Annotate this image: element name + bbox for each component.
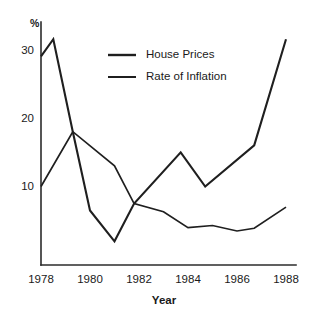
x-tick-label-1986: 1986: [215, 274, 259, 286]
x-tick-label-1978: 1978: [19, 274, 63, 286]
y-tick-label-20: 20: [10, 113, 34, 125]
x-tick-label-1984: 1984: [166, 274, 210, 286]
x-axis-title: Year: [104, 295, 224, 307]
x-tick-label-1980: 1980: [68, 274, 112, 286]
legend-label-rate-of-inflation: Rate of Inflation: [146, 71, 227, 83]
y-tick-label-30: 30: [10, 45, 34, 57]
y-tick-label-10: 10: [10, 181, 34, 193]
chart-plot-area: [0, 0, 310, 313]
x-tick-label-1988: 1988: [264, 274, 308, 286]
legend-label-house-prices: House Prices: [146, 49, 214, 61]
series-line-rate-of-inflation: [41, 132, 286, 231]
x-tick-label-1982: 1982: [117, 274, 161, 286]
line-chart: % 30 20 10 1978 1980 1982 1984 1986 1988…: [0, 0, 310, 313]
y-axis-unit-label: %: [30, 18, 39, 29]
